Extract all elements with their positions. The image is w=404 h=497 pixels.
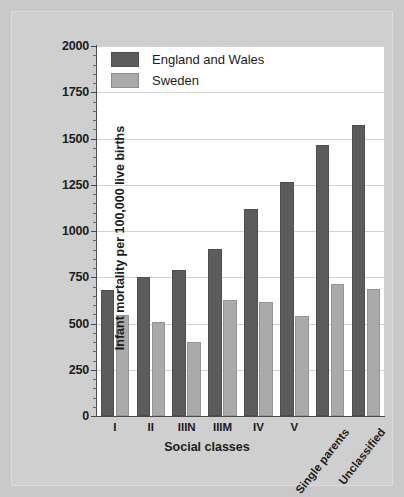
y-tick-minor-200	[93, 379, 97, 380]
x-axis-title: Social classes	[97, 440, 317, 454]
legend-label-sweden: Sweden	[152, 73, 199, 88]
chart-frame: England and Wales Sweden Infant mortalit…	[11, 11, 393, 486]
gridline-2000	[97, 46, 384, 47]
y-tick-major-0	[91, 416, 97, 417]
y-tick-minor-1300	[93, 176, 97, 177]
y-tick-minor-400	[93, 342, 97, 343]
y-tick-minor-550	[93, 314, 97, 315]
bar-single-parents-sweden	[331, 284, 345, 416]
y-tick-major-1000	[91, 231, 97, 232]
bar-iiin-england-and-wales	[172, 270, 186, 416]
gridline-1250	[97, 185, 384, 186]
y-tick-minor-600	[93, 305, 97, 306]
y-tick-major-750	[91, 277, 97, 278]
y-tick-label-500: 500	[27, 317, 89, 331]
legend-swatch-england-and-wales	[111, 52, 139, 67]
y-tick-major-1500	[91, 139, 97, 140]
y-tick-minor-50	[93, 407, 97, 408]
y-tick-label-1500: 1500	[27, 132, 89, 146]
y-tick-minor-350	[93, 351, 97, 352]
bar-ii-england-and-wales	[137, 277, 151, 416]
legend-label-england-and-wales: England and Wales	[152, 52, 264, 67]
bar-unclassified-england-and-wales	[352, 125, 366, 416]
bar-unclassified-sweden	[367, 289, 381, 416]
bar-single-parents-england-and-wales	[316, 145, 330, 416]
y-tick-major-1250	[91, 185, 97, 186]
bar-iiin-sweden	[187, 342, 201, 416]
y-tick-minor-1050	[93, 222, 97, 223]
x-tick-label-iiin: IIIN	[178, 421, 196, 433]
y-tick-label-750: 750	[27, 270, 89, 284]
bar-v-england-and-wales	[280, 182, 294, 416]
chart-figure: England and Wales Sweden Infant mortalit…	[0, 0, 404, 497]
bar-v-sweden	[295, 316, 309, 416]
y-tick-minor-300	[93, 361, 97, 362]
y-tick-minor-1900	[93, 65, 97, 66]
y-tick-minor-1350	[93, 166, 97, 167]
x-tick-label-iiim: IIIM	[213, 421, 232, 433]
y-tick-major-2000	[91, 46, 97, 47]
y-tick-label-1750: 1750	[27, 85, 89, 99]
y-tick-minor-1950	[93, 55, 97, 56]
y-tick-minor-150	[93, 388, 97, 389]
x-tick-label-v: V	[290, 421, 298, 433]
y-tick-label-250: 250	[27, 363, 89, 377]
y-tick-minor-1450	[93, 148, 97, 149]
gridline-1500	[97, 139, 384, 140]
gridline-1000	[97, 231, 384, 232]
y-tick-major-1750	[91, 92, 97, 93]
y-tick-major-500	[91, 324, 97, 325]
bar-iiim-england-and-wales	[208, 249, 222, 416]
y-tick-minor-1100	[93, 213, 97, 214]
legend-item-england-and-wales: England and Wales	[111, 52, 264, 67]
plot-area: England and Wales Sweden Infant mortalit…	[97, 46, 384, 416]
y-tick-minor-1700	[93, 102, 97, 103]
y-tick-minor-1650	[93, 111, 97, 112]
y-tick-minor-950	[93, 240, 97, 241]
bar-iv-england-and-wales	[244, 209, 258, 416]
y-tick-minor-100	[93, 398, 97, 399]
y-tick-minor-1150	[93, 203, 97, 204]
y-tick-label-0: 0	[27, 409, 89, 423]
bar-iv-sweden	[259, 302, 273, 416]
y-tick-label-1250: 1250	[27, 178, 89, 192]
x-tick-label-ii: II	[148, 421, 154, 433]
y-tick-minor-1550	[93, 129, 97, 130]
y-tick-minor-700	[93, 287, 97, 288]
y-tick-minor-1200	[93, 194, 97, 195]
x-axis-line	[96, 416, 385, 417]
y-tick-label-2000: 2000	[27, 39, 89, 53]
y-tick-minor-900	[93, 250, 97, 251]
bar-iiim-sweden	[223, 300, 237, 416]
x-tick-label-single-parents: Single parents	[293, 426, 351, 496]
x-tick-label-i: I	[113, 421, 116, 433]
y-tick-minor-650	[93, 296, 97, 297]
y-tick-minor-850	[93, 259, 97, 260]
y-tick-minor-1400	[93, 157, 97, 158]
y-tick-minor-800	[93, 268, 97, 269]
y-tick-minor-1800	[93, 83, 97, 84]
y-tick-major-250	[91, 370, 97, 371]
legend-item-sweden: Sweden	[111, 73, 264, 88]
bar-ii-sweden	[152, 322, 166, 416]
chart-legend: England and Wales Sweden	[111, 52, 264, 94]
y-tick-minor-450	[93, 333, 97, 334]
y-tick-minor-1600	[93, 120, 97, 121]
x-tick-label-iv: IV	[253, 421, 264, 433]
y-tick-label-1000: 1000	[27, 224, 89, 238]
y-axis-title: Infant mortality per 100,000 live births	[113, 73, 127, 403]
y-tick-minor-1850	[93, 74, 97, 75]
